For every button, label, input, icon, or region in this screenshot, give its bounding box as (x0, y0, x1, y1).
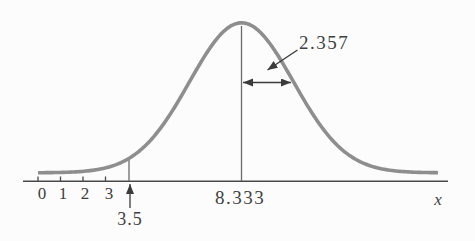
normal-curve-figure: 0 1 2 3 3.5 8.333 2.357 x (0, 0, 475, 241)
sd-pointer-arrow (268, 50, 298, 70)
tick-label-3: 3 (105, 185, 114, 202)
marker-label-3-5: 3.5 (117, 210, 143, 228)
tick-label-2: 2 (81, 185, 90, 202)
x-axis-label: x (434, 191, 442, 208)
mean-label: 8.333 (215, 188, 265, 207)
tick-label-0: 0 (38, 185, 47, 202)
sd-label: 2.357 (299, 33, 349, 52)
bell-curve (38, 23, 438, 173)
tick-label-1: 1 (59, 185, 68, 202)
